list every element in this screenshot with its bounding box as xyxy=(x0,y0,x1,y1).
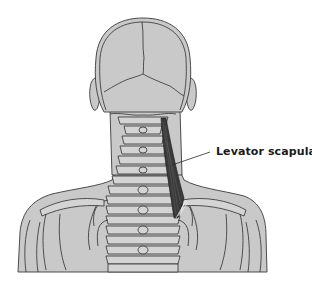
anatomy-illustration xyxy=(0,0,312,284)
levator-scapulae-label: Levator scapulae xyxy=(216,145,312,158)
